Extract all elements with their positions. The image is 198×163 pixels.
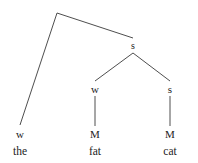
metrical-tree-figure: s w s w M M the fat cat (0, 0, 198, 163)
node-label-fat-w: w (91, 84, 99, 95)
edge-root-to-branch-s (57, 13, 133, 38)
node-label-the-w: w (16, 129, 24, 140)
edge-branch-s-to-cat-s (133, 53, 170, 81)
edge-branch-s-to-fat-w (95, 53, 133, 81)
node-label-branch-s: s (131, 41, 135, 51)
word-fat: fat (89, 146, 101, 158)
word-the: the (13, 146, 27, 158)
node-label-cat-s: s (168, 84, 172, 95)
word-cat: cat (163, 146, 176, 158)
node-label-fat-m: M (90, 129, 100, 140)
node-label-cat-m: M (165, 129, 175, 140)
edge-root-to-the (20, 13, 57, 125)
